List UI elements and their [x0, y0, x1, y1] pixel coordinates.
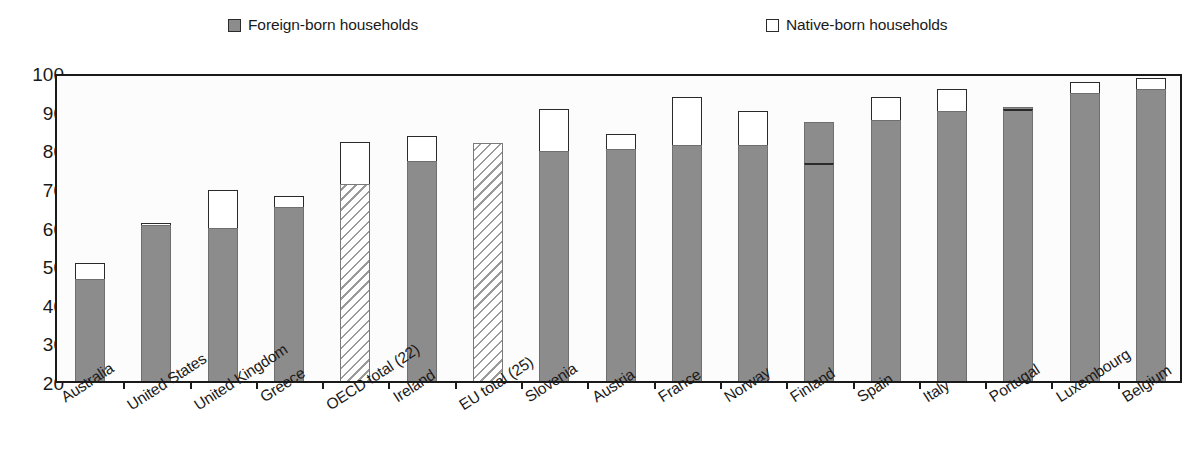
bars-layer — [57, 76, 1180, 381]
bar-segment-foreign-born — [473, 143, 503, 381]
legend-item-native-born: Native-born households — [766, 17, 948, 33]
legend-item-foreign-born: Foreign-born households — [228, 17, 418, 33]
chart-legend: Foreign-born households Native-born hous… — [0, 8, 1187, 42]
bar-portugal — [1003, 107, 1033, 381]
bar-segment-foreign-born — [606, 149, 636, 381]
filled-square-icon — [228, 19, 241, 32]
bar-france — [672, 97, 702, 381]
bar-segment-foreign-born — [804, 163, 834, 381]
bar-segment-foreign-born — [1003, 109, 1033, 381]
bar-segment-foreign-born — [208, 228, 238, 381]
bar-segment-foreign-born — [672, 145, 702, 381]
legend-label-foreign-born: Foreign-born households — [248, 17, 418, 33]
bar-slovenia — [539, 109, 569, 381]
bar-segment-foreign-born — [539, 151, 569, 381]
bar-united-states — [141, 223, 171, 381]
bar-segment-foreign-born — [141, 225, 171, 381]
plot-area — [55, 74, 1182, 383]
legend-label-native-born: Native-born households — [786, 17, 948, 33]
bar-luxembourg — [1070, 82, 1100, 381]
bar-italy — [937, 89, 967, 381]
bar-chart: Foreign-born households Native-born hous… — [0, 0, 1187, 474]
bar-austria — [606, 134, 636, 381]
bar-segment-foreign-born — [1070, 93, 1100, 381]
bar-eu-total-25 — [473, 143, 503, 381]
bar-belgium — [1136, 78, 1166, 381]
bar-segment-foreign-born — [1136, 89, 1166, 381]
hollow-square-icon — [766, 19, 779, 32]
bar-segment-foreign-born — [937, 111, 967, 381]
bar-norway — [738, 111, 768, 381]
x-axis-labels: AustraliaUnited StatesUnited KingdomGree… — [0, 383, 1187, 474]
bar-oecd-total-22 — [340, 142, 370, 381]
bar-spain — [871, 97, 901, 381]
bar-finland — [804, 122, 834, 381]
bar-united-kingdom — [208, 190, 238, 381]
bar-segment-foreign-born — [871, 120, 901, 381]
bar-segment-foreign-born — [340, 184, 370, 381]
bar-segment-foreign-born — [738, 145, 768, 381]
